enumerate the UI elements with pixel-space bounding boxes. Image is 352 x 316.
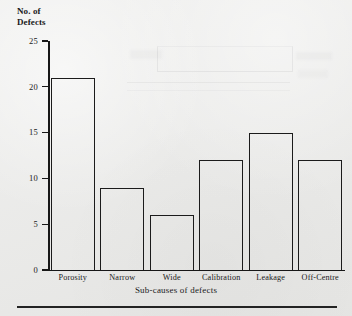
y-axis-tick-label: 10 [10,174,38,183]
y-axis-title-line-1: No. of [17,6,41,16]
y-axis-title: No. of Defects [17,6,46,27]
bar-porosity [51,78,95,270]
page-footer-rule [17,306,337,308]
bar-leakage [249,133,293,270]
plot-area [48,41,345,270]
y-axis-tick-label: 5 [10,220,38,229]
bar-narrow [100,188,144,270]
bar-wide [150,215,194,270]
x-axis-label-off-centre: Off-Centre [280,273,352,282]
y-axis-tick-label: 20 [10,83,38,92]
y-axis-tick-label: 15 [10,128,38,137]
y-axis-title-line-2: Defects [17,17,46,27]
bar-off-centre [298,160,342,270]
x-axis-title: Sub-causes of defects [0,285,352,295]
y-axis-tick-label: 25 [10,37,38,46]
bar-chart-figure: No. of Defects 0510152025 PorosityNarrow… [0,0,352,316]
bar-calibration [199,160,243,270]
